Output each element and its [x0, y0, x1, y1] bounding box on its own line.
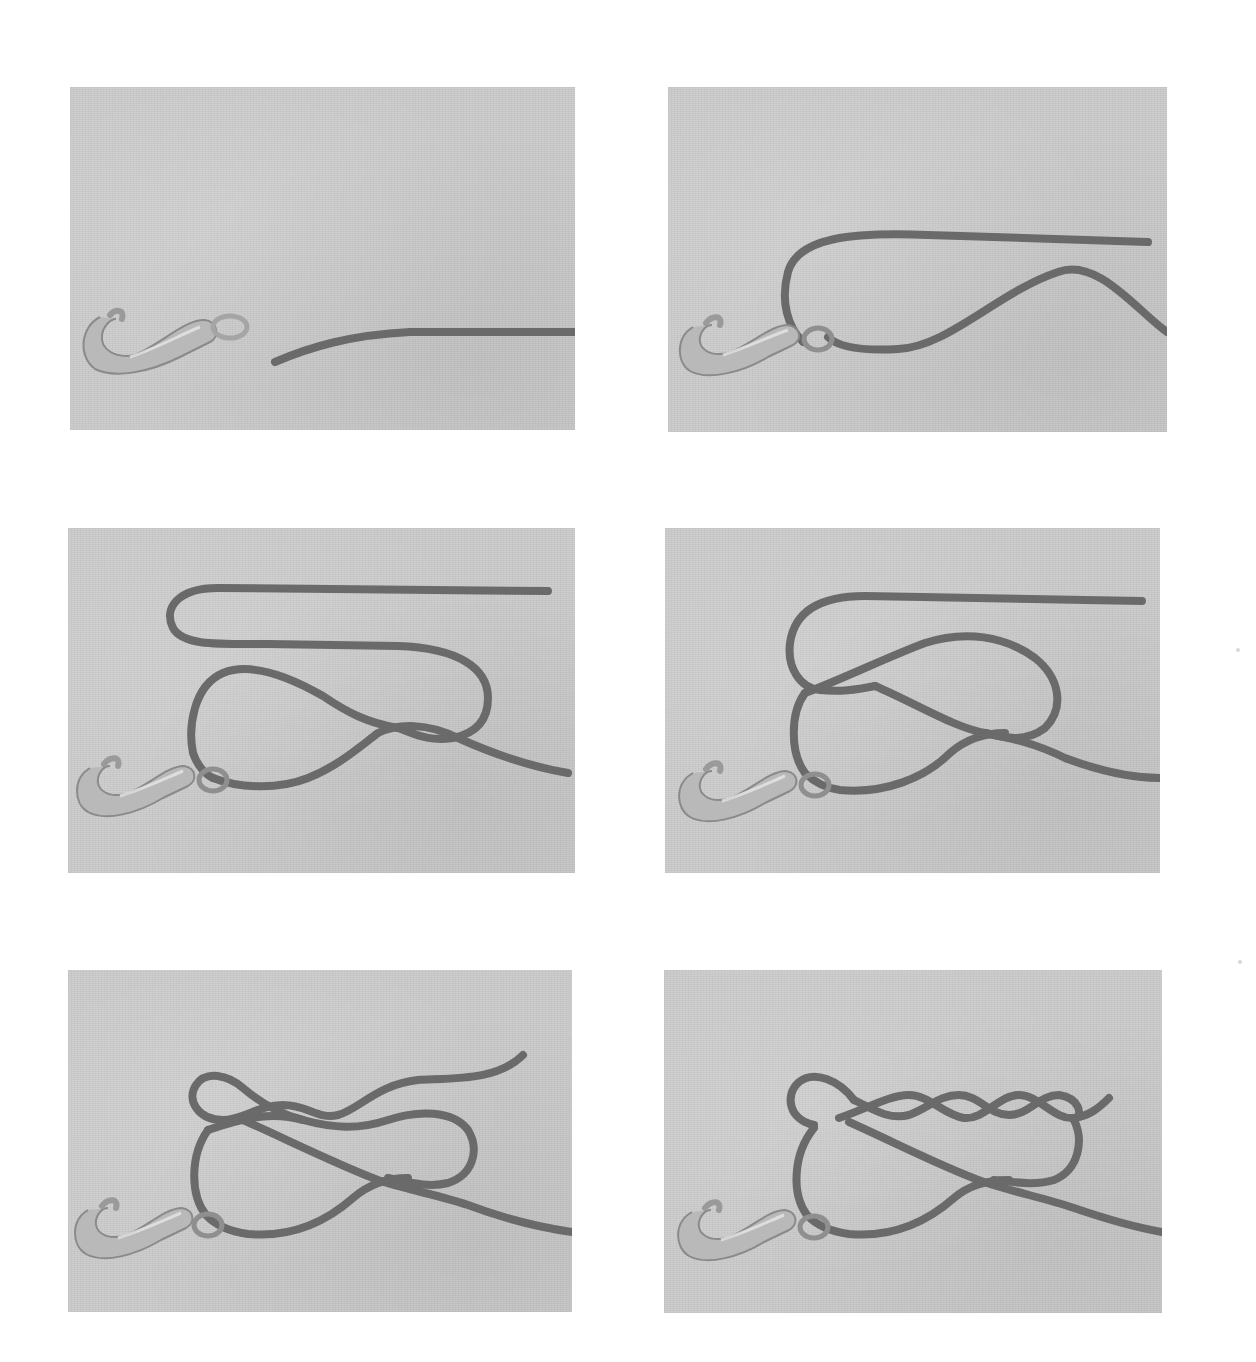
photo-panel-step-5: Step 5: Working end wrapped around the l… — [68, 970, 572, 1312]
knot-step-3-illustration — [68, 528, 575, 873]
photo-panel-step-4: Step 4: Second crossing formed — [665, 528, 1160, 873]
cord-icon — [192, 1055, 572, 1235]
snap-hook-icon — [680, 317, 832, 375]
photo-panel-step-1: Step 1: Cord end beside snap hook — [70, 87, 575, 430]
cord-icon — [170, 588, 568, 786]
knot-step-5-illustration — [68, 970, 572, 1312]
knot-step-1-illustration — [70, 87, 575, 430]
cord-icon — [275, 332, 575, 362]
knot-step-4-illustration — [665, 528, 1160, 873]
cord-icon — [785, 234, 1167, 349]
knot-step-2-illustration — [668, 87, 1167, 432]
cord-icon — [790, 596, 1160, 791]
photo-panel-step-6: Step 6: Multiple wraps completed — [664, 970, 1162, 1313]
knot-step-6-illustration — [664, 970, 1162, 1313]
scan-artifact — [1238, 960, 1242, 964]
photo-panel-step-2: Step 2: Cord passed through hook eye, fo… — [668, 87, 1167, 432]
photo-panel-step-3: Step 3: Cord looped back across standing… — [68, 528, 575, 873]
snap-hook-icon — [84, 311, 247, 374]
cord-icon — [791, 1077, 1162, 1235]
scan-artifact — [1236, 648, 1240, 652]
